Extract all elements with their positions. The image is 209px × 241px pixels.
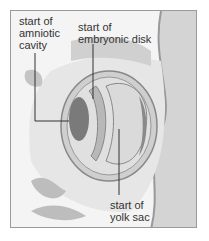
label-embryonic-disk: start of embryonic disk (78, 21, 151, 45)
label-yolk-sac: start of yolk sac (110, 199, 150, 223)
diagram-frame: start of amniotic cavity start of embryo… (10, 10, 197, 228)
label-amniotic-cavity: start of amniotic cavity (19, 15, 60, 51)
